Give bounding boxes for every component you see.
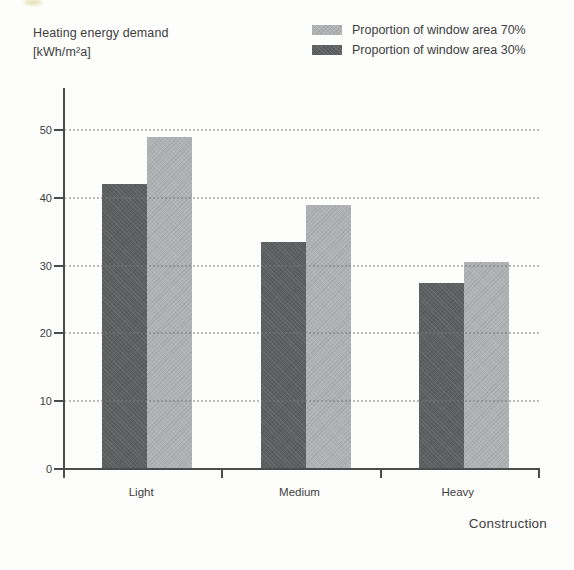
bar-light-window-70pct (147, 137, 192, 469)
gridline-30 (64, 265, 539, 267)
bar-light-window-30pct (102, 184, 147, 469)
bar-heavy-window-30pct (419, 283, 464, 469)
x-tick-1 (221, 469, 223, 478)
y-tick-label-10: 10 (22, 394, 52, 408)
x-tick-3 (538, 469, 540, 478)
y-tick-label-30: 30 (22, 259, 52, 273)
bar-heavy-window-70pct (464, 262, 509, 469)
y-tick-30 (54, 265, 64, 267)
x-tick-0 (63, 469, 65, 478)
x-axis-line (54, 468, 540, 470)
scanned-bar-chart-figure: Heating energy demand [kWh/m²a] Proporti… (0, 0, 574, 570)
category-label-heavy: Heavy (398, 486, 518, 498)
gridline-10 (64, 400, 539, 402)
bar-medium-window-70pct (306, 205, 351, 469)
y-tick-label-0: 0 (22, 462, 52, 476)
x-tick-2 (380, 469, 382, 478)
gridline-40 (64, 197, 539, 199)
y-tick-40 (54, 197, 64, 199)
category-label-light: Light (81, 486, 201, 498)
y-axis-line (63, 88, 65, 471)
y-tick-20 (54, 332, 64, 334)
y-tick-label-50: 50 (22, 123, 52, 137)
plot-area: 01020304050LightMediumHeavy (0, 0, 574, 570)
y-tick-10 (54, 400, 64, 402)
y-tick-label-20: 20 (22, 326, 52, 340)
bar-medium-window-30pct (261, 242, 306, 469)
gridline-20 (64, 332, 539, 334)
y-tick-label-40: 40 (22, 191, 52, 205)
category-label-medium: Medium (240, 486, 360, 498)
y-tick-50 (54, 129, 64, 131)
x-axis-title: Construction (347, 516, 547, 531)
gridline-50 (64, 129, 539, 131)
